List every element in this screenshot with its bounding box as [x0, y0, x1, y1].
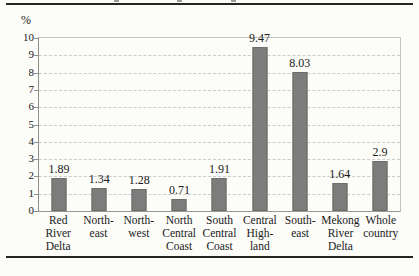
x-axis-label-line: Red [38, 214, 78, 227]
bar-value-label: 1.64 [318, 168, 362, 181]
y-axis-tick-label-9: 9 [8, 49, 34, 60]
bar-slot: 1.91 [199, 38, 239, 211]
bar-value-label: 1.91 [197, 163, 241, 176]
bar-slot: 0.71 [159, 38, 199, 211]
x-axis-category-labels: RedRiverDeltaNorth-eastNorth-westNorthCe… [38, 214, 401, 253]
bar-whole-country [372, 161, 387, 211]
x-axis-label-line: west [119, 227, 159, 240]
bar-slot: 9.47 [240, 38, 280, 211]
bar-slot: 1.28 [119, 38, 159, 211]
y-axis-tick-label-5: 5 [8, 119, 34, 130]
y-axis-tick [34, 73, 38, 74]
bar-value-label: 2.9 [358, 146, 402, 159]
y-axis-unit-label: % [21, 13, 31, 28]
bar-value-label: 1.34 [77, 173, 121, 186]
x-axis-label-line: North- [119, 214, 159, 227]
x-axis-label-line: Central [159, 227, 199, 240]
y-axis-tick [34, 38, 38, 39]
x-axis-label-south-east: South-east [280, 214, 320, 253]
clipped-caption-remnant [177, 0, 182, 2]
bar-slot: 8.03 [280, 38, 320, 211]
x-axis-label-mekong-river-delta: MekongRiverDelta [320, 214, 360, 253]
x-axis-label-line: Coast [159, 240, 199, 253]
y-axis-tick-label-4: 4 [8, 136, 34, 147]
bar-value-label: 0.71 [157, 184, 201, 197]
top-rule-divider [6, 3, 413, 5]
x-axis-label-central-high-land: CentralHigh-land [240, 214, 280, 253]
y-axis-tick [34, 211, 38, 212]
x-axis-label-line: country [361, 227, 401, 240]
y-axis-tick [34, 90, 38, 91]
clipped-caption-remnant [231, 0, 236, 2]
y-axis-tick-label-8: 8 [8, 67, 34, 78]
bar-slot: 1.34 [79, 38, 119, 211]
bar-north-west [132, 189, 147, 211]
bar-north-east [92, 188, 107, 211]
plot-area: 1.891.341.280.711.919.478.031.642.9 [38, 37, 401, 212]
bar-north-central-coast [172, 199, 187, 211]
bar-value-label: 8.03 [278, 57, 322, 70]
x-axis-label-line: Delta [320, 240, 360, 253]
x-axis-label-line: Central [199, 227, 239, 240]
bar-value-label: 9.47 [238, 32, 282, 45]
y-axis-tick-label-10: 10 [8, 32, 34, 43]
x-axis-label-line: east [280, 227, 320, 240]
bar-red-river-delta [52, 178, 67, 211]
y-axis-tick [34, 55, 38, 56]
y-axis-tick [34, 142, 38, 143]
y-axis-tick [34, 176, 38, 177]
y-axis-tick [34, 159, 38, 160]
y-axis-tick [34, 194, 38, 195]
x-axis-label-line: River [320, 227, 360, 240]
x-axis-label-line: North- [78, 214, 118, 227]
y-axis-tick-label-2: 2 [8, 170, 34, 181]
bar-central-high-land [252, 47, 267, 211]
x-axis-label-south-central-coast: SouthCentralCoast [199, 214, 239, 253]
y-axis-tick-label-6: 6 [8, 101, 34, 112]
y-axis-tick-label-1: 1 [8, 188, 34, 199]
x-axis-label-line: River [38, 227, 78, 240]
x-axis-label-line: land [240, 240, 280, 253]
bar-value-label: 1.89 [37, 163, 81, 176]
x-axis-label-line: Coast [199, 240, 239, 253]
x-axis-label-line: Central [240, 214, 280, 227]
x-axis-label-north-east: North-east [78, 214, 118, 253]
x-axis-label-line: Delta [38, 240, 78, 253]
bar-south-central-coast [212, 178, 227, 211]
y-axis-tick-label-3: 3 [8, 153, 34, 164]
y-axis-tick [34, 125, 38, 126]
x-axis-label-north-central-coast: NorthCentralCoast [159, 214, 199, 253]
bar-mekong-river-delta [332, 183, 347, 211]
x-axis-label-line: east [78, 227, 118, 240]
bar-value-label: 1.28 [117, 174, 161, 187]
bar-slot: 1.64 [320, 38, 360, 211]
y-axis-tick-label-7: 7 [8, 84, 34, 95]
x-axis-label-line: Whole [361, 214, 401, 227]
y-axis-tick-label-0: 0 [8, 205, 34, 216]
x-axis-label-line: High- [240, 227, 280, 240]
x-axis-label-line: South- [280, 214, 320, 227]
bar-slot: 1.89 [39, 38, 79, 211]
x-axis-label-line: North [159, 214, 199, 227]
x-axis-label-whole-country: Wholecountry [361, 214, 401, 253]
x-axis-label-red-river-delta: RedRiverDelta [38, 214, 78, 253]
bar-chart-figure: % 012345678910 1.891.341.280.711.919.478… [0, 0, 419, 276]
bar-south-east [292, 72, 307, 211]
y-axis-tick [34, 107, 38, 108]
bottom-rule-divider [6, 256, 413, 258]
x-axis-label-north-west: North-west [119, 214, 159, 253]
bar-series: 1.891.341.280.711.919.478.031.642.9 [39, 38, 400, 211]
x-axis-label-line: South [199, 214, 239, 227]
x-axis-label-line: Mekong [320, 214, 360, 227]
bar-slot: 2.9 [360, 38, 400, 211]
clipped-caption-remnant [114, 0, 119, 2]
